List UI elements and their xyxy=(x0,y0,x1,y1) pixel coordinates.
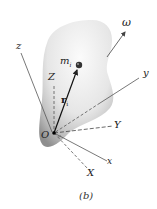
origin-point-icon xyxy=(52,131,56,135)
mass-subscript: i xyxy=(69,61,71,68)
z-body-axis-label: z xyxy=(16,41,21,51)
x-axis-line xyxy=(54,133,107,161)
position-vector-subscript: i xyxy=(66,100,68,107)
omega-label: ω xyxy=(122,17,131,28)
mass-label: mi xyxy=(60,56,71,68)
position-vector-label: ri xyxy=(61,95,68,107)
figure-caption: (b) xyxy=(79,191,93,201)
mass-particle-icon xyxy=(76,62,82,68)
X-fixed-axis-label: X xyxy=(87,168,94,178)
Z-fixed-axis-label: Z xyxy=(48,72,55,82)
Y-fixed-axis-label: Y xyxy=(114,120,121,130)
origin-label: O xyxy=(41,130,49,140)
diagram-graphics xyxy=(0,0,157,209)
x-body-axis-label: x xyxy=(107,157,112,166)
rigid-body-diagram: ω z mi Z y ri Y O x X (b) xyxy=(0,0,157,209)
X-axis-line xyxy=(54,133,88,169)
y-body-axis-label: y xyxy=(143,68,149,78)
